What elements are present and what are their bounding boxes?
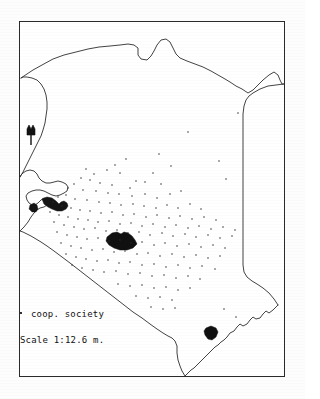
coop-society-dot <box>152 172 154 174</box>
coop-society-dot <box>87 219 89 221</box>
coop-society-dot <box>237 112 239 114</box>
coop-society-dot <box>145 216 147 218</box>
coop-society-dot <box>163 274 165 276</box>
coop-society-dot <box>177 264 179 266</box>
coop-society-dot <box>165 266 167 268</box>
mombasa-marker <box>204 326 218 340</box>
coop-society-dot <box>179 215 181 217</box>
coop-society-dot <box>152 223 154 225</box>
coop-society-dot <box>76 236 78 238</box>
coop-society-dot <box>156 214 158 216</box>
coop-society-dot <box>89 210 91 212</box>
coop-society-dot <box>85 258 87 260</box>
coop-society-dot <box>75 256 77 258</box>
coop-society-dot <box>180 190 182 192</box>
coop-society-dot <box>165 286 167 288</box>
coop-society-dot <box>53 221 55 223</box>
coop-society-dot <box>147 297 149 299</box>
coop-society-dot <box>93 173 95 175</box>
kenya-map-svg <box>20 22 286 378</box>
coop-society-dot <box>117 283 119 285</box>
coop-society-dot <box>98 201 100 203</box>
coop-society-dot <box>92 269 94 271</box>
coop-society-dot <box>177 289 179 291</box>
coop-society-dot <box>119 223 121 225</box>
coop-society-dot <box>122 214 124 216</box>
coop-society-dot <box>73 183 75 185</box>
coop-society-dot <box>203 216 205 218</box>
dot-symbol <box>20 312 22 314</box>
coop-society-dot <box>114 164 116 166</box>
coop-society-dot <box>150 306 152 308</box>
coop-society-dot <box>107 259 109 261</box>
coop-society-dot <box>94 227 96 229</box>
coop-society-dot <box>191 218 193 220</box>
coop-society-dot <box>58 214 60 216</box>
coop-society-dot <box>74 198 76 200</box>
coop-society-dot <box>63 224 65 226</box>
coop-society-dot <box>103 271 105 273</box>
coop-society-dot <box>129 187 131 189</box>
coop-society-dot <box>210 228 212 230</box>
coop-society-dot <box>187 275 189 277</box>
coop-society-dot <box>57 196 59 198</box>
coop-society-dot <box>70 245 72 247</box>
coop-society-dot <box>161 232 163 234</box>
coop-society-dot <box>149 234 151 236</box>
coop-society-dot <box>144 193 146 195</box>
coop-society-dot <box>158 153 160 155</box>
coop-society-dot <box>225 178 227 180</box>
coop-society-dot <box>176 245 178 247</box>
coop-society-dot <box>136 253 138 255</box>
coop-society-dot <box>102 248 104 250</box>
coop-society-dot <box>199 278 201 280</box>
coop-society-dot <box>219 255 221 257</box>
coop-society-dot <box>235 316 237 318</box>
coop-society-dot <box>99 182 101 184</box>
coop-society-dot <box>85 168 87 170</box>
coop-society-dot <box>164 226 166 228</box>
coop-society-dot <box>155 207 157 209</box>
coop-society-dot <box>107 192 109 194</box>
coop-society-dot <box>80 177 82 179</box>
coop-society-dot <box>129 285 131 287</box>
coop-society-dot <box>207 257 209 259</box>
coop-society-dot <box>222 226 224 228</box>
coop-society-dot <box>130 222 132 224</box>
coop-society-dot <box>141 241 143 243</box>
coop-society-dot <box>223 308 225 310</box>
coop-society-dot <box>96 260 98 262</box>
coop-society-dot <box>219 237 221 239</box>
coop-society-dot <box>52 201 54 203</box>
coop-society-dot <box>184 233 186 235</box>
coop-society-dot <box>91 249 93 251</box>
coop-society-dot <box>73 226 75 228</box>
coop-society-dot <box>189 267 191 269</box>
coop-society-dot <box>151 275 153 277</box>
coop-society-dot <box>207 234 209 236</box>
coop-society-dot <box>135 295 137 297</box>
coop-society-dot <box>120 204 122 206</box>
coop-society-dot <box>113 251 115 253</box>
coop-society-dot <box>125 158 127 160</box>
coop-society-dot <box>119 239 121 241</box>
coop-society-dot <box>124 250 126 252</box>
coop-society-dot <box>132 203 134 205</box>
coop-society-dot <box>95 190 97 192</box>
coop-society-dot <box>127 273 129 275</box>
coop-society-dot <box>61 205 63 207</box>
coop-society-dot-layer <box>49 112 239 318</box>
coop-society-dot <box>106 169 108 171</box>
coop-society-dot <box>135 180 137 182</box>
coop-society-dot <box>171 253 173 255</box>
coop-society-dot <box>189 203 191 205</box>
coop-society-dot <box>218 160 220 162</box>
coop-society-dot <box>60 242 62 244</box>
coop-society-dot <box>131 195 133 197</box>
coop-society-dot <box>119 172 121 174</box>
coop-society-dot <box>100 212 102 214</box>
coop-society-dot <box>166 204 168 206</box>
coop-society-dot <box>77 218 79 220</box>
coop-society-dot <box>160 183 162 185</box>
coop-society-dot <box>234 229 236 231</box>
